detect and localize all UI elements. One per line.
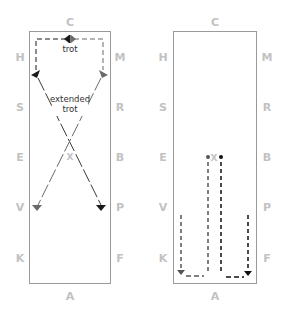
trot-label: trot	[62, 44, 78, 54]
letter-c: C	[211, 16, 219, 29]
letter-b: B	[263, 151, 271, 164]
letter-s: S	[16, 101, 24, 114]
letter-k: K	[159, 252, 168, 265]
arena-right: C A H S E V K M R B P F X	[158, 16, 272, 303]
extended-trot-label: extended	[50, 94, 90, 104]
start-dot-black	[219, 155, 223, 159]
letter-a: A	[66, 290, 75, 303]
letter-b: B	[116, 151, 124, 164]
arrow-head-icon	[31, 70, 40, 78]
letter-a: A	[211, 290, 220, 303]
extended-trot-label: trot	[62, 104, 78, 114]
arrow-head-icon	[99, 70, 108, 78]
letter-f: F	[116, 252, 124, 265]
arrow-down-icon	[177, 270, 185, 275]
trot-path	[31, 35, 108, 78]
arrow-down-icon	[32, 205, 42, 211]
letter-p: P	[263, 201, 271, 214]
letter-c: C	[66, 16, 74, 29]
arena-left: C A H S E V K M R B P F trot	[15, 16, 125, 303]
letter-v: V	[159, 201, 168, 214]
letter-k: K	[16, 252, 25, 265]
arrow-down-icon	[96, 205, 106, 211]
letter-m: M	[115, 51, 126, 64]
letter-m: M	[262, 51, 273, 64]
transition-marker-icon	[64, 35, 69, 43]
letter-e: E	[159, 151, 167, 164]
letter-r: R	[263, 101, 272, 114]
dressage-diagram: C A H S E V K M R B P F trot	[0, 0, 286, 315]
letter-f: F	[263, 252, 271, 265]
arrow-down-icon	[244, 271, 252, 276]
letter-x: X	[211, 153, 218, 163]
letter-s: S	[159, 101, 167, 114]
letter-v: V	[16, 201, 25, 214]
letter-x: X	[67, 152, 74, 162]
letter-h: H	[158, 51, 167, 64]
start-dot-gray	[206, 155, 210, 159]
letter-r: R	[116, 101, 125, 114]
letter-h: H	[15, 51, 24, 64]
letter-p: P	[116, 201, 124, 214]
letter-e: E	[16, 151, 24, 164]
